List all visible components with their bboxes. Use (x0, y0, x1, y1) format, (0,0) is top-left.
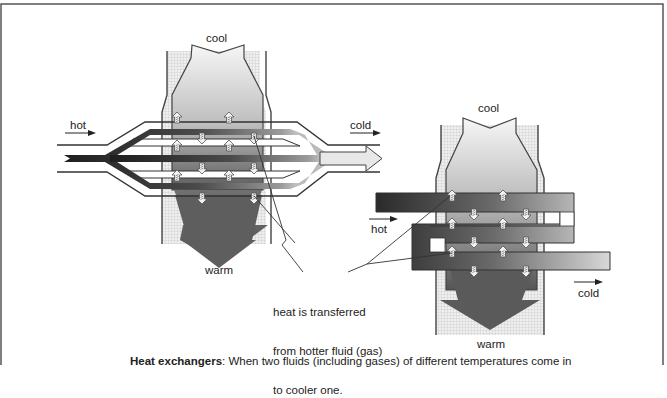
right-exchanger (369, 118, 610, 335)
left-outlet-label: cold (350, 120, 371, 132)
annotation-line-1: heat is transferred (273, 306, 382, 319)
caption-title: Heat exchangers (130, 355, 222, 367)
caption-text: : When two fluids (including gases) of d… (222, 355, 571, 367)
right-top-label: cool (478, 103, 499, 115)
left-inlet-label: hot (70, 120, 86, 132)
left-top-label: cool (206, 33, 227, 45)
figure-caption: Heat exchangers: When two fluids (includ… (130, 355, 571, 367)
heat-transfer-annotation: heat is transferred from hotter fluid (g… (273, 280, 382, 398)
right-outlet-label: cold (578, 288, 599, 300)
right-inlet-label: hot (371, 224, 387, 236)
left-bottom-label: warm (205, 265, 233, 277)
right-bottom-label: warm (477, 339, 505, 351)
annotation-line-3: to cooler one. (273, 384, 382, 397)
left-exchanger (57, 45, 382, 268)
